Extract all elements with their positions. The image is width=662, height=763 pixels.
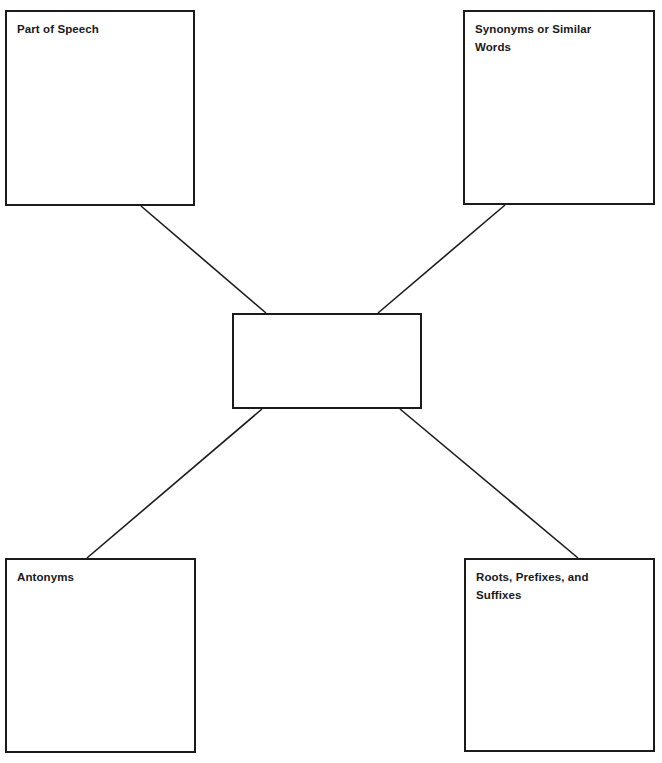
node-roots-prefixes-suffixes-label: Roots, Prefixes, and Suffixes xyxy=(476,569,643,604)
node-antonyms[interactable]: Antonyms xyxy=(5,558,196,753)
connector-antonyms xyxy=(87,409,262,558)
node-part-of-speech-label: Part of Speech xyxy=(17,21,183,39)
connector-part-of-speech xyxy=(141,206,266,313)
connector-synonyms xyxy=(378,205,505,313)
node-synonyms[interactable]: Synonyms or Similar Words xyxy=(463,10,655,205)
connector-roots xyxy=(400,409,578,558)
node-center-word[interactable] xyxy=(232,313,422,409)
graphic-organizer-canvas: Part of Speech Synonyms or Similar Words… xyxy=(0,0,662,763)
node-synonyms-label: Synonyms or Similar Words xyxy=(475,21,643,56)
node-part-of-speech[interactable]: Part of Speech xyxy=(5,10,195,206)
node-roots-prefixes-suffixes[interactable]: Roots, Prefixes, and Suffixes xyxy=(464,558,655,752)
node-antonyms-label: Antonyms xyxy=(17,569,184,587)
